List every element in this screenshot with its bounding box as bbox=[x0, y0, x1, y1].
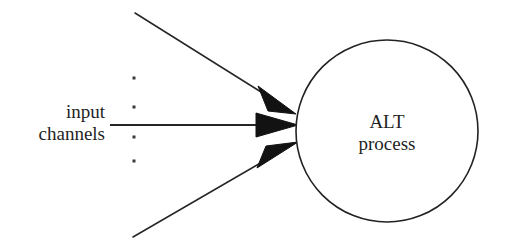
ellipsis-dot-3 bbox=[133, 136, 136, 139]
alt-process-diagram: ALT process input channels bbox=[0, 0, 512, 250]
ellipsis-dot-4 bbox=[133, 160, 136, 163]
channel-top-line bbox=[135, 13, 277, 102]
channel-bottom-arrowhead bbox=[257, 142, 298, 168]
input-channels-label-line1: input bbox=[66, 101, 106, 122]
ellipsis-dot-2 bbox=[133, 106, 136, 109]
channel-top-arrowhead bbox=[258, 86, 296, 114]
figure-root: ALT process input channels bbox=[0, 0, 512, 250]
channel-bottom-arrow bbox=[133, 142, 298, 237]
channel-top-arrow bbox=[135, 13, 296, 114]
channel-middle-arrow bbox=[110, 113, 298, 137]
channel-bottom-line bbox=[133, 154, 276, 237]
input-channels-label-line2: channels bbox=[39, 123, 105, 144]
alt-process-label-line1: ALT bbox=[369, 111, 405, 132]
channel-middle-arrowhead bbox=[256, 113, 298, 137]
ellipsis-dot-1 bbox=[133, 77, 136, 80]
alt-process-label-line2: process bbox=[359, 133, 416, 154]
channel-ellipsis bbox=[133, 77, 136, 163]
